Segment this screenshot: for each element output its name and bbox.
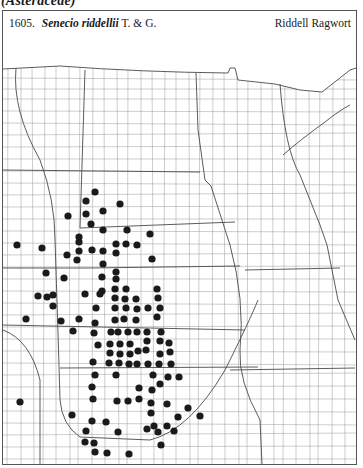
occurrence-dot bbox=[126, 350, 133, 357]
occurrence-dot bbox=[125, 360, 132, 367]
occurrence-dot bbox=[132, 316, 139, 323]
occurrence-dot bbox=[196, 412, 203, 419]
occurrence-dot bbox=[156, 350, 163, 357]
occurrence-dot bbox=[156, 380, 163, 387]
occurrence-dot bbox=[88, 417, 95, 424]
occurrence-dot bbox=[116, 350, 123, 357]
occurrence-dot bbox=[116, 200, 123, 207]
occurrence-dot bbox=[99, 226, 106, 233]
occurrence-dot bbox=[124, 397, 131, 404]
occurrence-dot bbox=[147, 409, 154, 416]
occurrence-dot bbox=[57, 317, 64, 324]
occurrence-dot bbox=[106, 340, 113, 347]
occurrence-dot bbox=[155, 360, 162, 367]
occurrence-dot bbox=[82, 210, 89, 217]
occurrence-dot bbox=[148, 386, 155, 393]
occurrence-dot bbox=[88, 246, 95, 253]
occurrence-dot bbox=[164, 373, 171, 380]
occurrence-dot bbox=[111, 304, 118, 311]
occurrence-dot bbox=[49, 302, 56, 309]
occurrence-dot bbox=[153, 313, 160, 320]
occurrence-dot bbox=[157, 441, 164, 448]
occurrence-dot bbox=[115, 359, 122, 366]
occurrence-dot bbox=[163, 422, 170, 429]
occurrence-dot bbox=[123, 226, 130, 233]
occurrence-dot bbox=[142, 346, 149, 353]
occurrence-dot bbox=[132, 295, 139, 302]
occurrence-dot bbox=[163, 400, 170, 407]
occurrence-dot bbox=[69, 327, 76, 334]
occurrence-dot bbox=[111, 294, 118, 301]
occurrence-dot bbox=[122, 285, 129, 292]
occurrence-dot bbox=[170, 427, 177, 434]
occurrence-dot bbox=[114, 428, 121, 435]
occurrence-dot bbox=[107, 328, 114, 335]
occurrence-dot bbox=[99, 207, 106, 214]
occurrence-dot bbox=[112, 249, 119, 256]
occurrence-dot bbox=[91, 188, 98, 195]
occurrence-dot bbox=[175, 373, 182, 380]
occurrence-dot bbox=[111, 285, 118, 292]
occurrence-dot bbox=[42, 269, 49, 276]
occurrence-dot bbox=[122, 240, 129, 247]
occurrence-dot bbox=[134, 347, 141, 354]
occurrence-dot bbox=[133, 305, 140, 312]
occurrence-dot bbox=[82, 197, 89, 204]
occurrence-dot bbox=[60, 274, 67, 281]
occurrence-dot bbox=[90, 439, 97, 446]
occurrence-dot bbox=[165, 339, 172, 346]
occurrence-dot bbox=[166, 348, 173, 355]
occurrence-dot bbox=[135, 384, 142, 391]
occurrence-dot bbox=[154, 428, 161, 435]
occurrence-dot bbox=[73, 256, 80, 263]
occurrence-dot bbox=[167, 360, 174, 367]
occurrence-dot bbox=[102, 418, 109, 425]
occurrence-dot bbox=[135, 395, 142, 402]
occurrence-dot bbox=[150, 422, 157, 429]
occurrence-dot bbox=[184, 404, 191, 411]
occurrence-dot bbox=[125, 450, 132, 457]
occurrence-dot bbox=[81, 438, 88, 445]
occurrence-dot bbox=[148, 255, 155, 262]
occurrence-dot bbox=[114, 328, 121, 335]
occurrence-dot bbox=[92, 304, 99, 311]
occurrence-dot bbox=[99, 247, 106, 254]
occurrence-dot bbox=[113, 397, 120, 404]
occurrence-dot bbox=[91, 371, 98, 378]
occurrence-dot bbox=[88, 383, 95, 390]
occurrence-dot bbox=[149, 371, 156, 378]
occurrence-dot bbox=[157, 328, 164, 335]
occurrence-dot bbox=[89, 395, 96, 402]
occurrence-dot bbox=[143, 328, 150, 335]
occurrence-dot bbox=[64, 212, 71, 219]
occurrence-dot bbox=[75, 247, 82, 254]
occurrence-dot bbox=[133, 328, 140, 335]
occurrence-dot bbox=[112, 275, 119, 282]
occurrence-dot bbox=[133, 241, 140, 248]
occurrence-dot bbox=[106, 349, 113, 356]
occurrence-dot bbox=[63, 251, 70, 258]
occurrence-dot bbox=[120, 315, 127, 322]
occurrence-dot bbox=[124, 328, 131, 335]
occurrence-dot bbox=[144, 304, 151, 311]
occurrence-dot bbox=[122, 304, 129, 311]
occurrence-dot bbox=[91, 448, 98, 455]
county-grid bbox=[0, 60, 360, 466]
occurrence-dot bbox=[154, 294, 161, 301]
distribution-map bbox=[0, 0, 363, 468]
occurrence-dot bbox=[16, 398, 23, 405]
occurrence-dot bbox=[90, 329, 97, 336]
occurrence-dot bbox=[111, 316, 118, 323]
occurrence-dot bbox=[143, 337, 150, 344]
occurrence-dot bbox=[146, 230, 153, 237]
occurrence-dot bbox=[81, 290, 88, 297]
occurrence-dot bbox=[156, 304, 163, 311]
occurrence-dot bbox=[91, 319, 98, 326]
occurrence-dot bbox=[34, 292, 41, 299]
occurrence-dot bbox=[13, 241, 20, 248]
occurrence-dot bbox=[174, 413, 181, 420]
occurrence-dot bbox=[96, 290, 103, 297]
occurrence-dot bbox=[121, 295, 128, 302]
occurrence-dot bbox=[144, 360, 151, 367]
occurrence-dot bbox=[89, 358, 96, 365]
